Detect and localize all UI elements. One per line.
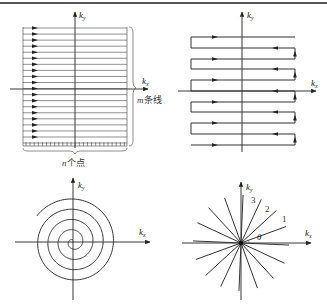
direction-arrow-icon bbox=[32, 99, 38, 103]
direction-arrow-icon bbox=[32, 105, 38, 109]
direction-arrow-icon bbox=[32, 123, 38, 127]
direction-arrow-icon bbox=[272, 110, 278, 114]
kx-axis-label: kx bbox=[305, 228, 312, 239]
ky-axis-label: ky bbox=[78, 180, 85, 191]
direction-arrow-icon bbox=[32, 63, 38, 67]
direction-arrow-icon bbox=[212, 35, 218, 39]
panel-raster: ky kx bbox=[178, 10, 318, 152]
direction-arrow-icon bbox=[32, 75, 38, 79]
direction-arrow-icon bbox=[272, 132, 278, 136]
direction-arrow-icon bbox=[212, 143, 218, 147]
direction-arrow-icon bbox=[32, 81, 38, 85]
panel-cartesian: ky kx m条线 n个点 bbox=[10, 10, 162, 168]
direction-arrow-icon bbox=[32, 69, 38, 73]
spoke-label-1: 1 bbox=[282, 214, 287, 224]
direction-arrow-icon bbox=[272, 46, 278, 50]
panel-spiral: ky kx bbox=[15, 178, 150, 300]
kx-axis-label: kx bbox=[142, 76, 149, 87]
center-point bbox=[239, 241, 243, 245]
direction-arrow-icon bbox=[32, 135, 38, 139]
up-arrow-icon bbox=[293, 51, 297, 57]
zigzag-trajectory bbox=[191, 35, 297, 147]
direction-arrow-icon bbox=[32, 93, 38, 97]
direction-arrow-icon bbox=[32, 117, 38, 121]
direction-arrow-icon bbox=[212, 57, 218, 61]
direction-arrow-icon bbox=[32, 129, 38, 133]
ky-axis-label: ky bbox=[79, 10, 86, 21]
direction-arrow-icon bbox=[212, 78, 218, 82]
k-space-trajectories-figure: ky kx m条线 n个点 ky kx ky kx ky bbox=[0, 0, 327, 308]
spoke-label-3: 3 bbox=[251, 195, 256, 205]
kx-axis-label: kx bbox=[311, 78, 318, 89]
up-arrow-icon bbox=[293, 137, 297, 143]
direction-arrow-icon bbox=[272, 89, 278, 93]
direction-arrow-icon bbox=[32, 26, 38, 30]
right-brace bbox=[129, 27, 136, 146]
spoke-label-2: 2 bbox=[265, 204, 270, 214]
sample-point-ticks bbox=[23, 142, 127, 146]
point-count-label: n个点 bbox=[62, 158, 85, 168]
direction-arrow-icon bbox=[32, 32, 38, 36]
angle-label: θ bbox=[257, 232, 262, 242]
direction-arrow-icon bbox=[32, 44, 38, 48]
ky-axis-label: ky bbox=[247, 10, 254, 21]
bottom-brace bbox=[23, 148, 127, 154]
direction-arrow-icon bbox=[272, 67, 278, 71]
up-arrow-icon bbox=[293, 94, 297, 100]
kx-axis-label: kx bbox=[139, 227, 146, 238]
direction-arrow-icon bbox=[32, 56, 38, 60]
direction-arrow-icon bbox=[32, 111, 38, 115]
direction-arrow-icon bbox=[32, 50, 38, 54]
direction-arrow-icon bbox=[32, 87, 38, 91]
line-count-label: m条线 bbox=[137, 94, 162, 105]
direction-arrow-icon bbox=[32, 38, 38, 42]
spiral-trajectory bbox=[37, 199, 114, 280]
direction-arrow-icon bbox=[212, 121, 218, 125]
up-arrow-icon bbox=[293, 72, 297, 78]
direction-arrow-icon bbox=[212, 100, 218, 104]
up-arrow-icon bbox=[293, 115, 297, 121]
panel-radial: ky kx θ 1 2 3 bbox=[182, 182, 312, 300]
raster-line bbox=[191, 37, 295, 145]
ky-axis-label: ky bbox=[246, 182, 253, 193]
